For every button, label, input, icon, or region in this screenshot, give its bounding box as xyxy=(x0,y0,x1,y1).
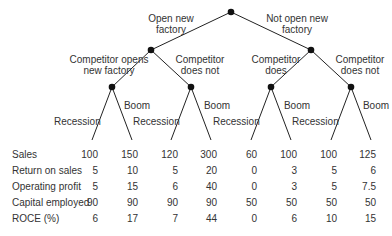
table-cell: 125 xyxy=(346,149,376,161)
table-cell: 90 xyxy=(187,197,217,209)
table-cell: 0 xyxy=(227,165,257,177)
table-cell: 10 xyxy=(108,165,138,177)
table-cell: 150 xyxy=(108,149,138,161)
table-cell: 5 xyxy=(307,165,337,177)
table-cell: 7.5 xyxy=(346,181,376,193)
table-cell: 6 xyxy=(346,165,376,177)
table-cell: 20 xyxy=(187,165,217,177)
table-cell: 40 xyxy=(187,181,217,193)
table-cell: 6 xyxy=(267,213,297,225)
table-cell: 15 xyxy=(108,181,138,193)
table-cell: 90 xyxy=(108,197,138,209)
root-node xyxy=(228,9,235,16)
table-cell: 50 xyxy=(227,197,257,209)
table-cell: 0 xyxy=(227,213,257,225)
table-cell: 90 xyxy=(68,197,98,209)
table-cell: 3 xyxy=(267,165,297,177)
table-cell: 300 xyxy=(187,149,217,161)
table-cell: 5 xyxy=(148,165,178,177)
leaf-label-recession: Recession xyxy=(213,116,259,127)
branch-label-competitor-does-not-2: Competitor does not xyxy=(330,54,390,76)
table-cell: 7 xyxy=(148,213,178,225)
table-cell: 120 xyxy=(148,149,178,161)
branch-label-competitor-opens: Competitor opens new factory xyxy=(64,54,154,76)
branch-label-competitor-does-not-1: Competitor does not xyxy=(170,54,230,76)
table-cell: 5 xyxy=(68,165,98,177)
table-cell: 17 xyxy=(108,213,138,225)
table-cell: 100 xyxy=(68,149,98,161)
table-cell: 3 xyxy=(267,181,297,193)
leaf-label-boom: Boom xyxy=(202,100,232,111)
table-cell: 100 xyxy=(307,149,337,161)
leaf-label-boom: Boom xyxy=(361,100,391,111)
node-not-open xyxy=(308,47,315,54)
table-cell: 50 xyxy=(307,197,337,209)
leaf-label-recession: Recession xyxy=(292,116,338,127)
leaf-label-boom: Boom xyxy=(122,100,152,111)
branch-label-competitor-does: Competitor does xyxy=(248,54,304,76)
leaf-label-recession: Recession xyxy=(54,116,100,127)
table-cell: 5 xyxy=(68,181,98,193)
table-cell: 44 xyxy=(187,213,217,225)
table-cell: 100 xyxy=(267,149,297,161)
table-cell: 6 xyxy=(68,213,98,225)
row-label-sales: Sales xyxy=(12,149,37,161)
leaf-label-boom: Boom xyxy=(282,100,312,111)
table-cell: 90 xyxy=(148,197,178,209)
table-cell: 10 xyxy=(307,213,337,225)
node-open xyxy=(148,47,155,54)
leaf-label-recession: Recession xyxy=(133,116,179,127)
branch-label-not-open-new-factory: Not open new factory xyxy=(262,13,332,35)
table-cell: 0 xyxy=(227,181,257,193)
row-label-roce: ROCE (%) xyxy=(12,213,59,225)
table-cell: 50 xyxy=(267,197,297,209)
table-cell: 50 xyxy=(346,197,376,209)
table-cell: 60 xyxy=(227,149,257,161)
branch-label-open-new-factory: Open new factory xyxy=(146,13,196,35)
table-cell: 5 xyxy=(307,181,337,193)
table-cell: 15 xyxy=(346,213,376,225)
table-cell: 6 xyxy=(148,181,178,193)
